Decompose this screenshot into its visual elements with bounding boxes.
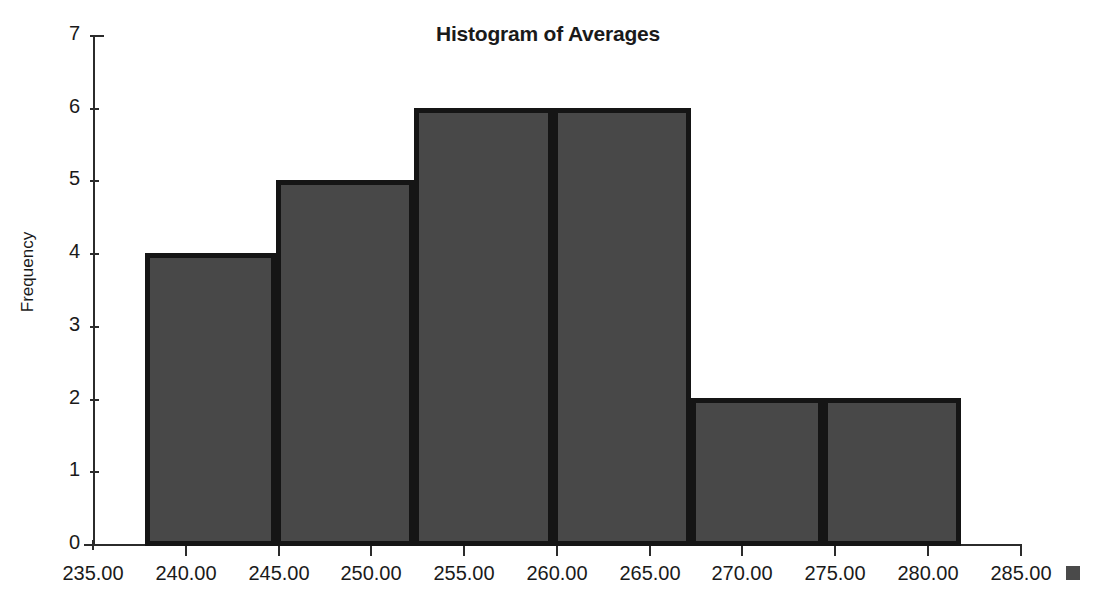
x-tick-mark	[741, 546, 743, 556]
histogram-bar[interactable]	[145, 253, 276, 546]
y-tick-label: 2	[40, 386, 80, 409]
y-tick-label: 1	[40, 458, 80, 481]
y-tick-mark	[90, 399, 99, 401]
y-tick-label: 7	[40, 22, 80, 45]
histogram-bar[interactable]	[823, 398, 961, 546]
legend-color-swatch[interactable]	[1066, 566, 1080, 580]
x-tick-mark	[556, 546, 558, 556]
x-tick-mark	[1020, 546, 1022, 556]
x-tick-mark	[927, 546, 929, 556]
histogram-bar[interactable]	[691, 398, 823, 546]
y-tick-mark	[90, 35, 99, 37]
y-tick-mark	[90, 326, 99, 328]
histogram-bar[interactable]	[276, 180, 414, 546]
y-tick-mark	[90, 471, 99, 473]
y-axis-line	[93, 35, 95, 546]
x-tick-mark	[185, 546, 187, 556]
y-tick-label: 6	[40, 95, 80, 118]
histogram-bar[interactable]	[414, 108, 553, 546]
y-tick-label: 0	[40, 531, 80, 554]
y-tick-label: 5	[40, 167, 80, 190]
x-tick-mark	[649, 546, 651, 556]
y-tick-mark	[90, 253, 99, 255]
y-tick-label: 4	[40, 240, 80, 263]
x-tick-mark	[370, 546, 372, 556]
x-tick-mark	[463, 546, 465, 556]
y-axis-label: Frequency	[18, 222, 38, 322]
x-tick-mark	[278, 546, 280, 556]
x-tick-mark	[834, 546, 836, 556]
y-tick-mark	[90, 108, 99, 110]
histogram-chart: Histogram of Averages Frequency 7 6 5 4 …	[0, 0, 1096, 613]
x-tick-label: 285.00	[961, 562, 1081, 585]
histogram-bar[interactable]	[553, 108, 691, 546]
y-tick-label: 3	[40, 313, 80, 336]
x-tick-mark	[92, 540, 94, 550]
chart-title: Histogram of Averages	[0, 22, 1096, 46]
y-tick-mark	[90, 180, 99, 182]
